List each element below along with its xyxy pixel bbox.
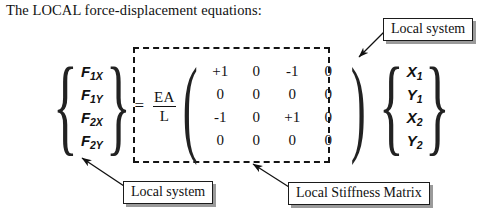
matrix-cell: 0	[310, 129, 346, 152]
equals-sign: =	[134, 96, 144, 116]
matrix-cell: 0	[202, 129, 238, 152]
matrix-cell: 0	[274, 83, 310, 106]
matrix-row: 0 0 0 0	[202, 129, 346, 152]
matrix-cell: 0	[202, 83, 238, 106]
matrix-cell: 0	[274, 129, 310, 152]
matrix-cell: 0	[310, 83, 346, 106]
matrix-cell: -1	[202, 106, 238, 129]
matrix-row: +1 0 -1 0	[202, 60, 346, 83]
force-vector-item: F1Y	[81, 83, 103, 106]
displacement-vector-item: X2	[407, 106, 423, 129]
displacement-vector-item: Y1	[407, 83, 423, 106]
displacement-vector-item: X1	[407, 60, 423, 83]
matrix-cell: 0	[310, 60, 346, 83]
matrix-close-paren: )	[351, 52, 366, 160]
force-vector-item: F2X	[81, 106, 103, 129]
displacement-vector-close-brace: }	[426, 52, 451, 160]
callout-local-stiffness-matrix: Local Stiffness Matrix	[288, 182, 430, 205]
matrix-row: -1 0 +1 0	[202, 106, 346, 129]
matrix-row: 0 0 0 0	[202, 83, 346, 106]
equation: { F1X F1Y F2X F2Y } = EA L ( +1 0 -1 0 0…	[52, 50, 451, 162]
matrix-cell: 0	[238, 106, 274, 129]
page-title: The LOCAL force-displacement equations:	[6, 2, 262, 19]
matrix-cell: +1	[274, 106, 310, 129]
displacement-vector-item: Y2	[407, 129, 423, 152]
displacement-vector: X1 Y1 X2 Y2	[405, 60, 425, 152]
stiffness-matrix: +1 0 -1 0 0 0 0 0 -1 0 +1 0 0 0 0 0	[199, 60, 349, 152]
leader-line-stiffness-arrow	[253, 164, 289, 187]
force-vector-item: F1X	[81, 60, 103, 83]
matrix-cell: 0	[238, 60, 274, 83]
force-vector-open-brace: {	[53, 52, 78, 160]
matrix-cell: 0	[238, 129, 274, 152]
force-vector: F1X F1Y F2X F2Y	[79, 60, 105, 152]
matrix-cell: +1	[202, 60, 238, 83]
fraction-denominator: L	[160, 107, 169, 124]
ea-over-l-fraction: EA L	[153, 89, 176, 124]
matrix-cell: 0	[310, 106, 346, 129]
force-vector-close-brace: }	[106, 52, 131, 160]
callout-local-system-displacement: Local system	[383, 18, 473, 41]
matrix-open-paren: (	[182, 52, 197, 160]
callout-local-system-force: Local system	[123, 181, 213, 204]
displacement-vector-open-brace: {	[379, 52, 404, 160]
force-vector-item: F2Y	[81, 129, 103, 152]
matrix-cell: -1	[274, 60, 310, 83]
fraction-numerator: EA	[153, 89, 176, 107]
matrix-cell: 0	[238, 83, 274, 106]
